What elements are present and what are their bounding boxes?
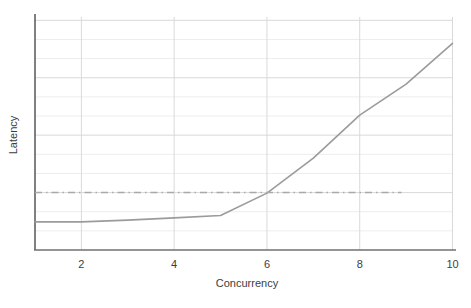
x-tick-label-8: 8 — [357, 258, 363, 270]
x-axis-title: Concurrency — [35, 277, 459, 289]
x-tick-label-10: 10 — [446, 258, 458, 270]
latency-curve — [35, 43, 453, 222]
x-tick-label-6: 6 — [264, 258, 270, 270]
latency-vs-concurrency-chart: 246810 Latency Concurrency — [0, 0, 471, 308]
x-tick-label-2: 2 — [78, 258, 84, 270]
plot-area: 246810 — [0, 0, 471, 308]
y-axis-title: Latency — [7, 116, 19, 155]
x-tick-label-4: 4 — [171, 258, 177, 270]
